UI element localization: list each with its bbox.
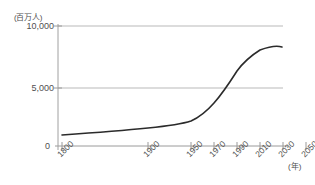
population-curve bbox=[62, 46, 282, 135]
population-line-chart: (百万人) 10,000 5,000 0 bbox=[0, 0, 315, 185]
x-axis-unit-label: (年) bbox=[288, 160, 301, 171]
chart-plot-area bbox=[0, 0, 315, 185]
